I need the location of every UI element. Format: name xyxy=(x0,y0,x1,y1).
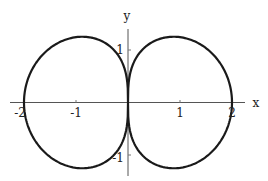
x-tick-label-2: 2 xyxy=(228,106,236,120)
x-tick-label-minus-2: -2 xyxy=(14,106,26,120)
x-axis-label: x xyxy=(253,96,260,110)
y-axis-label: y xyxy=(123,9,131,23)
y-tick-label-minus-1: -1 xyxy=(112,151,124,165)
y-tick-label-1: 1 xyxy=(116,43,124,57)
x-tick-label-1: 1 xyxy=(176,106,184,120)
polar-plot: -2 -1 1 2 1 -1 x y xyxy=(0,0,268,181)
x-tick-label-minus-1: -1 xyxy=(70,106,82,120)
